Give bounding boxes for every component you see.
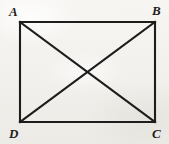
vertex-label-c: C (152, 127, 161, 140)
rectangle-diagram-svg (0, 0, 169, 144)
vertex-label-b: B (152, 4, 161, 17)
vertex-label-a: A (9, 5, 18, 18)
vertex-label-d: D (9, 127, 18, 140)
geometry-figure: A B C D (0, 0, 169, 144)
